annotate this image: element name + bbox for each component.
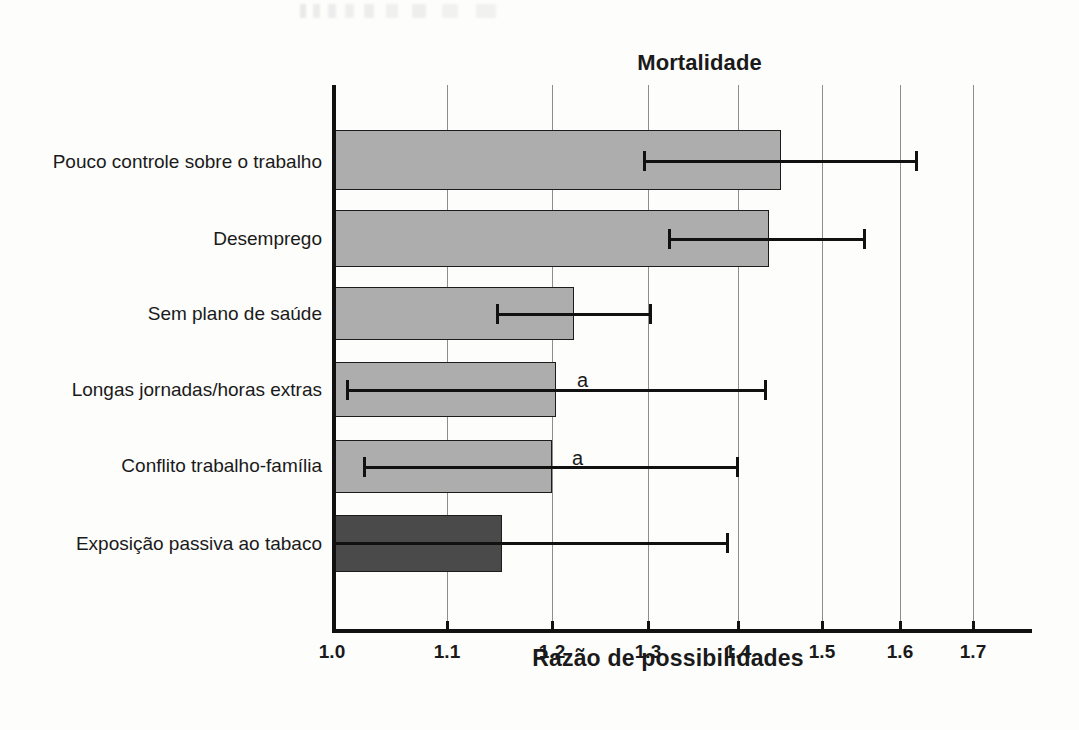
chart-title-text: Mortalidade (637, 50, 762, 76)
error-cap-high (726, 533, 729, 553)
error-cap-low (643, 151, 646, 171)
error-cap-high (736, 457, 739, 477)
category-label-exposicao-passiva-tabaco: Exposição passiva ao tabaco (76, 534, 322, 553)
tickmark-1-2 (551, 621, 554, 633)
plot-area: a a 1.0 1.1 1.2 1.3 1.4 1.5 1.6 1.7 (332, 85, 1032, 633)
gridline-1-5 (822, 85, 823, 630)
tickmark-1-5 (821, 621, 824, 633)
category-label-longas-jornadas: Longas jornadas/horas extras (72, 380, 322, 399)
category-label-desemprego: Desemprego (213, 229, 322, 248)
tickmark-1-1 (446, 621, 449, 633)
error-cap-high (649, 304, 652, 324)
x-axis-title-text: Razão de possibilidades (532, 645, 804, 672)
x-axis-line (332, 629, 1032, 633)
tickmark-1-0 (332, 621, 335, 633)
error-cap-high (764, 380, 767, 400)
tickmark-1-6 (899, 621, 902, 633)
category-label-conflito-trabalho-familia: Conflito trabalho-família (121, 456, 322, 475)
error-cap-high (915, 151, 918, 171)
error-cap-low (346, 380, 349, 400)
error-cap-low (363, 457, 366, 477)
tickmark-1-3 (647, 621, 650, 633)
x-axis-title: Razão de possibilidades (332, 645, 1032, 672)
gridline-1-6 (900, 85, 901, 630)
footnote-marker-conflito-trabalho-familia: a (572, 448, 583, 468)
error-cap-low (496, 304, 499, 324)
category-label-sem-plano-de-saude: Sem plano de saúde (148, 304, 322, 323)
tickmark-1-4 (737, 621, 740, 633)
error-cap-low (668, 229, 671, 249)
category-axis-labels: Pouco controle sobre o trabalho Desempre… (0, 0, 322, 730)
error-cap-high (863, 229, 866, 249)
tickmark-1-7 (972, 621, 975, 633)
category-label-pouco-controle: Pouco controle sobre o trabalho (53, 152, 322, 171)
mortality-odds-ratio-chart: Mortalidade Pouco controle sobre o traba… (0, 0, 1079, 730)
gridline-1-7 (973, 85, 974, 630)
y-axis-line (332, 85, 336, 633)
footnote-marker-longas-jornadas: a (577, 370, 588, 390)
